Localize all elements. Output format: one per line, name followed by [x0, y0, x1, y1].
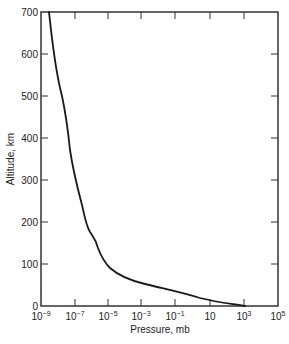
- x-ticks: [75, 12, 244, 306]
- y-tick-label: 400: [21, 133, 38, 144]
- y-tick-label: 300: [21, 175, 38, 186]
- x-tick-label: 10−7: [65, 310, 84, 322]
- x-tick-label: 10−5: [98, 310, 117, 322]
- x-tick-label: 105: [270, 310, 285, 322]
- y-tick-label: 700: [21, 7, 38, 18]
- pressure-altitude-chart: 0 100 200 300 400 500 600 700 10−9 10−7 …: [0, 0, 289, 344]
- y-axis-label: Altitude, km: [5, 133, 16, 185]
- x-tick-label: 10: [204, 311, 216, 322]
- x-tick-labels: 10−9 10−7 10−5 10−3 10−1 10 103 105: [31, 310, 285, 322]
- pressure-altitude-curve: [49, 12, 245, 306]
- y-tick-label: 500: [21, 91, 38, 102]
- y-tick-labels: 0 100 200 300 400 500 600 700: [21, 7, 38, 312]
- chart-svg: 0 100 200 300 400 500 600 700 10−9 10−7 …: [0, 0, 289, 344]
- x-tick-label: 10−9: [31, 310, 50, 322]
- x-tick-label: 10−3: [131, 310, 150, 322]
- y-tick-label: 100: [21, 259, 38, 270]
- x-axis-label: Pressure, mb: [130, 324, 190, 335]
- y-ticks: [41, 54, 278, 264]
- y-tick-label: 600: [21, 49, 38, 60]
- y-tick-label: 200: [21, 217, 38, 228]
- plot-frame: [41, 12, 278, 306]
- x-tick-label: 103: [236, 310, 251, 322]
- x-tick-label: 10−1: [165, 310, 184, 322]
